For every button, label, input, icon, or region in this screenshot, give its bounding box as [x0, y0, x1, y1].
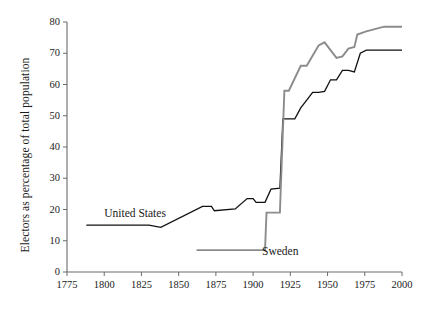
y-tick-label: 50	[30, 111, 60, 122]
axis-lines	[67, 22, 402, 272]
y-tick-label: 30	[30, 173, 60, 184]
x-axis-tick-marks	[67, 272, 402, 276]
y-tick-label: 40	[30, 142, 60, 153]
y-tick-label: 0	[30, 267, 60, 278]
y-tick-label: 80	[30, 17, 60, 28]
chart-figure: Electors as percentage of total populati…	[0, 0, 426, 310]
chart-plot-area	[0, 0, 426, 310]
y-axis-tick-marks	[63, 22, 67, 272]
y-tick-label: 10	[30, 236, 60, 247]
series-label-sweden: Sweden	[262, 246, 298, 258]
y-tick-label: 20	[30, 205, 60, 216]
y-tick-label: 60	[30, 80, 60, 91]
series-label-united-states: United States	[104, 208, 166, 220]
x-tick-label: 2000	[377, 280, 426, 291]
y-tick-label: 70	[30, 48, 60, 59]
